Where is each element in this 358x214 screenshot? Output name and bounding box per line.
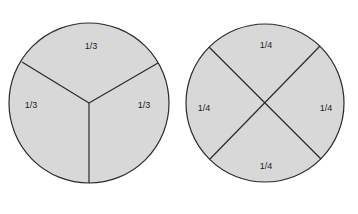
slice-label-right: 1/3 [138, 100, 151, 110]
slice-label-bottom: 1/4 [260, 161, 273, 171]
fraction-circles-diagram: 1/3 1/3 1/3 1/4 1/4 1/4 1/4 [0, 0, 358, 214]
slice-label-right: 1/4 [320, 103, 333, 113]
slice-label-left: 1/4 [198, 103, 211, 113]
slice-label-left: 1/3 [25, 100, 38, 110]
slice-label-top: 1/4 [260, 40, 273, 50]
slice-label-top: 1/3 [85, 41, 98, 51]
thirds-circle: 1/3 1/3 1/3 [9, 23, 169, 183]
quarters-circle: 1/4 1/4 1/4 1/4 [186, 24, 344, 182]
